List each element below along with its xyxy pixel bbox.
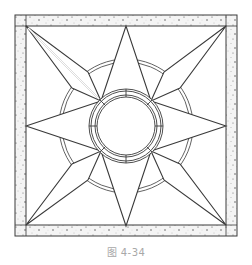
central-ring — [89, 89, 163, 163]
tile-pattern-diagram — [0, 0, 252, 245]
figure-caption: 图 4-34 — [0, 244, 252, 259]
kite-center-mask — [28, 28, 99, 99]
